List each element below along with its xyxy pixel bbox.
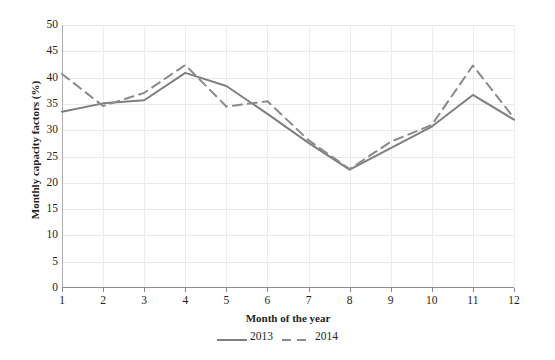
x-axis-tick-label: 7 [294,293,324,307]
legend-swatch-2014 [282,331,312,341]
x-axis-tick-label: 11 [458,293,488,307]
x-axis-tick-label: 8 [335,293,365,307]
y-axis-tick-label: 40 [30,72,58,84]
y-axis-tick-label: 30 [30,124,58,136]
x-axis-tickmark [226,288,227,292]
legend-entry[interactable]: 2013 [217,330,273,342]
y-axis-tick-label: 10 [30,230,58,242]
chart-figure: Monthly capacity factors (%) 05101520253… [0,0,555,360]
x-axis-tickmark [514,288,515,292]
x-axis-tickmark [185,288,186,292]
data-series-lines [62,25,514,288]
y-axis-tick-label: 50 [30,19,58,31]
x-axis-tickmark [350,288,351,292]
x-axis-tickmark [432,288,433,292]
y-axis-tick-label: 35 [30,98,58,110]
x-axis-tick-label: 10 [417,293,447,307]
y-axis-tick-label: 45 [30,46,58,58]
x-axis-tick-label: 5 [211,293,241,307]
y-axis-tick-label: 20 [30,177,58,189]
x-axis-tick-label: 3 [129,293,159,307]
x-axis-tick-label: 2 [88,293,118,307]
x-axis-tickmark [144,288,145,292]
line-series-2014 [62,65,514,169]
x-axis-tick-label: 1 [47,293,77,307]
gridline-vertical [514,25,515,288]
x-axis-tick-label: 9 [376,293,406,307]
y-axis-tick-label: 5 [30,256,58,268]
x-axis-tick-label: 4 [170,293,200,307]
plot-area [62,25,514,288]
legend-label-2014: 2014 [315,330,338,342]
x-axis-tickmark [473,288,474,292]
chart-legend: 20132014 [0,330,555,342]
x-axis-title: Month of the year [62,311,514,325]
y-axis-tick-label: 25 [30,151,58,163]
x-axis-tickmark [62,288,63,292]
x-axis-tick-label: 12 [499,293,529,307]
x-axis-tick-labels: 123456789101112 [62,293,514,309]
legend-swatch-2013 [217,331,247,341]
x-axis-tickmark [309,288,310,292]
x-axis-tick-label: 6 [252,293,282,307]
legend-label-2013: 2013 [250,330,273,342]
x-axis-tickmark [267,288,268,292]
y-axis-tick-label: 15 [30,203,58,215]
x-axis-tickmark [391,288,392,292]
y-axis-tick-labels: 05101520253035404550 [30,25,58,288]
legend-entry[interactable]: 2014 [282,330,338,342]
x-axis-tickmark [103,288,104,292]
